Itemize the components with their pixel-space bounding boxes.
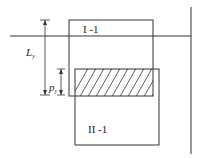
py-dimension-arrow <box>57 69 65 95</box>
label-box-I-1: I -1 <box>83 23 99 35</box>
label-Ly: Ly <box>25 46 35 59</box>
label-box-II-1: II -1 <box>88 123 107 135</box>
diagram-canvas: Ly py I -1 II -1 <box>0 0 202 158</box>
hatched-overlap-region <box>70 65 170 100</box>
label-py: py <box>48 81 58 94</box>
